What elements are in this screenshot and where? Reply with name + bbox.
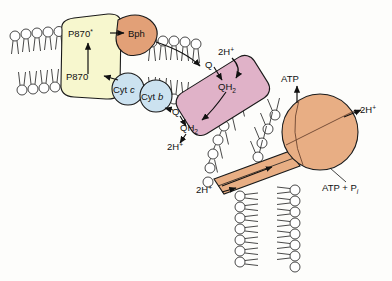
p870-excited-label: P870* bbox=[68, 28, 93, 39]
bph-label: Bph bbox=[128, 28, 145, 39]
atp-label: ATP bbox=[281, 73, 299, 84]
adp-pi-label: ATP + Pi bbox=[322, 182, 359, 195]
cyt-b-label: Cyt b bbox=[141, 91, 163, 102]
photosynthesis-diagram: P870* P870 Bph Cyt c Cyt b Q QH2 2H+ Q Q… bbox=[0, 0, 392, 281]
cyt-c-label: Cyt c bbox=[113, 84, 135, 95]
q-bottom-label: Q bbox=[172, 106, 179, 117]
q-top-label: Q bbox=[205, 59, 212, 70]
p870-ground-label: P870 bbox=[66, 71, 88, 82]
atp-synthase-head bbox=[282, 94, 358, 170]
